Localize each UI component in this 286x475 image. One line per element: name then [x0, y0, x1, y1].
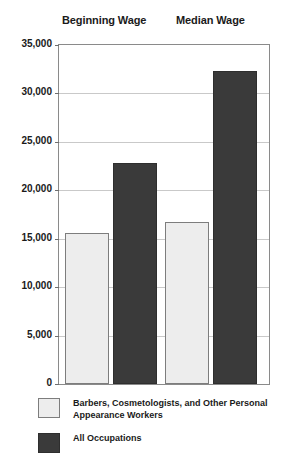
bar: [113, 163, 157, 384]
plot-area: [58, 44, 270, 385]
y-axis-label: 30,000: [6, 86, 52, 97]
legend-label: Barbers, Cosmetologists, and Other Perso…: [73, 398, 273, 421]
bar: [213, 71, 257, 384]
group-header-row: Beginning Wage Median Wage: [58, 14, 268, 32]
y-axis-label: 15,000: [6, 232, 52, 243]
legend-label: All Occupations: [73, 433, 142, 445]
legend-item: Barbers, Cosmetologists, and Other Perso…: [38, 398, 273, 421]
group-header-median-wage: Median Wage: [176, 14, 245, 26]
y-axis-label: 35,000: [6, 38, 52, 49]
y-axis-label: 5,000: [6, 329, 52, 340]
legend-swatch-light-icon: [38, 398, 60, 418]
y-axis-label: 20,000: [6, 183, 52, 194]
legend-item: All Occupations: [38, 433, 142, 453]
y-axis-tick: [55, 287, 59, 288]
y-axis-tick: [55, 45, 59, 46]
y-axis-label: 0: [6, 377, 52, 388]
y-axis-tick: [55, 336, 59, 337]
bar: [65, 233, 109, 384]
bar: [165, 222, 209, 384]
bar-chart: Beginning Wage Median Wage 35,00030,0002…: [0, 0, 286, 475]
legend-swatch-dark-icon: [38, 433, 60, 453]
y-axis-tick: [55, 239, 59, 240]
y-axis-label: 25,000: [6, 135, 52, 146]
y-axis-tick: [55, 190, 59, 191]
y-axis-label: 10,000: [6, 280, 52, 291]
group-header-beginning-wage: Beginning Wage: [62, 14, 146, 26]
y-axis-tick: [55, 142, 59, 143]
y-axis-tick: [55, 384, 59, 385]
y-axis-tick: [55, 93, 59, 94]
